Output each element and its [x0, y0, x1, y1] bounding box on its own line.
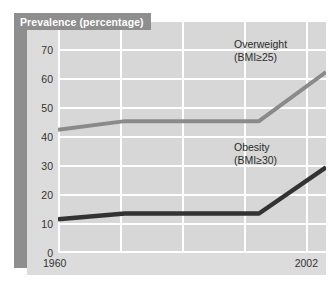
y-tick-label: 10 [41, 218, 53, 230]
series-label-overweight-line1: Overweight [234, 38, 287, 51]
y-tick-label: 30 [41, 160, 53, 172]
plot-area: Overweight (BMI≥25) Obesity (BMI≥30) [58, 22, 326, 253]
line-obesity [58, 167, 326, 219]
series-label-overweight-line2: (BMI≥25) [234, 51, 287, 64]
chart-figure: Prevalence (percentage) 70 60 50 40 30 2… [0, 0, 336, 298]
series-label-obesity-line2: (BMI≥30) [234, 154, 277, 167]
y-tick-label: 50 [41, 102, 53, 114]
y-axis: 70 60 50 40 30 20 10 0 [27, 22, 58, 253]
y-tick-label: 40 [41, 131, 53, 143]
y-tick-label: 0 [47, 247, 53, 259]
chart-title-banner: Prevalence (percentage) [14, 13, 151, 30]
series-label-overweight: Overweight (BMI≥25) [234, 38, 287, 63]
y-tick-label: 70 [41, 44, 53, 56]
line-overweight [58, 72, 326, 130]
series-label-obesity: Obesity (BMI≥30) [234, 141, 277, 166]
series-label-obesity-line1: Obesity [234, 141, 277, 154]
page-title: Prevalence (percentage) [20, 16, 144, 28]
y-tick-label: 60 [41, 73, 53, 85]
x-tick-label-end: 2002 [295, 257, 318, 269]
left-accent-bar [14, 20, 27, 268]
y-tick-label: 20 [41, 189, 53, 201]
x-axis: 1960 2002 [27, 253, 326, 275]
